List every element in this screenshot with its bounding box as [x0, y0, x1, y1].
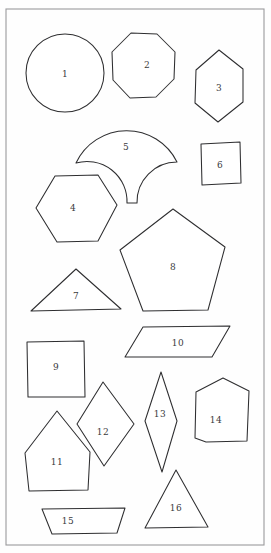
- shape-pentagon-8: [120, 209, 225, 311]
- shape-label-9: 9: [53, 362, 59, 372]
- shape-elongated-hexagon-tall-14: [195, 378, 249, 442]
- shape-label-6: 6: [217, 160, 223, 170]
- shape-label-14: 14: [210, 415, 222, 425]
- shape-label-16: 16: [170, 503, 182, 513]
- shape-label-7: 7: [73, 291, 79, 301]
- shapes-canvas: [0, 0, 271, 553]
- shape-label-12: 12: [97, 427, 109, 437]
- shape-regular-hexagon-4: [36, 175, 117, 242]
- shape-trapezoid-15: [42, 508, 125, 534]
- shape-label-3: 3: [216, 83, 222, 93]
- shape-label-13: 13: [154, 409, 166, 419]
- worksheet-sheet: 12345678910111213141516: [0, 0, 271, 553]
- shape-label-5: 5: [123, 142, 129, 152]
- shape-label-15: 15: [62, 516, 74, 526]
- shape-rhombus-narrow-13: [145, 372, 177, 472]
- shape-label-1: 1: [62, 69, 68, 79]
- shape-label-11: 11: [51, 457, 63, 467]
- shape-obtuse-triangle-7: [31, 269, 121, 311]
- shape-label-8: 8: [170, 262, 176, 272]
- shape-isosceles-triangle-16: [145, 470, 208, 528]
- shape-label-4: 4: [70, 203, 76, 213]
- shape-label-2: 2: [144, 60, 150, 70]
- shape-label-10: 10: [172, 338, 184, 348]
